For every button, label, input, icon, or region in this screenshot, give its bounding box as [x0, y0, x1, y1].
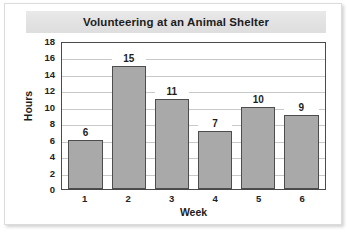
plot-area: 615117109 [61, 42, 326, 190]
y-tick-label: 2 [50, 168, 55, 180]
bar-value-label: 11 [155, 86, 189, 97]
y-tick-label: 18 [44, 36, 55, 48]
y-tick-label: 4 [50, 151, 55, 163]
bar [198, 131, 232, 189]
y-tick-label: 0 [50, 184, 55, 196]
bar [112, 66, 146, 189]
bar [68, 140, 102, 189]
bar [155, 99, 189, 189]
x-tick-label: 1 [67, 192, 102, 206]
y-tick-label: 14 [44, 69, 55, 81]
chart-title: Volunteering at an Animal Shelter [26, 13, 326, 31]
bar-slot: 15 [112, 43, 146, 189]
bar-slot: 9 [284, 43, 318, 189]
bar-slot: 11 [155, 43, 189, 189]
bar-slot: 10 [241, 43, 275, 189]
bar-value-label: 9 [284, 102, 318, 113]
x-tick-label: 3 [154, 192, 189, 206]
bar-value-label: 7 [198, 118, 232, 129]
x-axis-title: Week [61, 206, 326, 218]
bar [284, 115, 318, 189]
x-tick-label: 6 [285, 192, 320, 206]
bar-slot: 6 [68, 43, 102, 189]
bar-value-label: 6 [68, 127, 102, 138]
chart-card: Volunteering at an Animal Shelter Hours … [4, 3, 342, 225]
x-tick-label: 4 [198, 192, 233, 206]
bar-series: 615117109 [62, 43, 325, 189]
y-tick-label: 16 [44, 52, 55, 64]
bar-value-label: 10 [241, 94, 275, 105]
x-axis-tick-labels: 123456 [61, 192, 326, 206]
y-axis-tick-labels: 024681012141618 [27, 42, 59, 190]
bar-slot: 7 [198, 43, 232, 189]
y-tick-label: 12 [44, 85, 55, 97]
x-tick-label: 5 [241, 192, 276, 206]
x-tick-label: 2 [111, 192, 146, 206]
y-tick-label: 6 [50, 135, 55, 147]
bar [241, 107, 275, 189]
y-tick-label: 8 [50, 118, 55, 130]
y-tick-label: 10 [44, 102, 55, 114]
bar-value-label: 15 [112, 53, 146, 64]
